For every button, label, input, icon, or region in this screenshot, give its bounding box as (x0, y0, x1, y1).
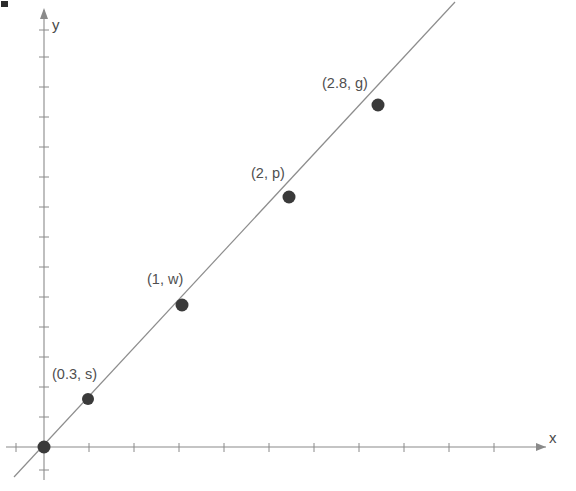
y-axis-label: y (52, 16, 60, 33)
coordinate-plot: (0.3, s) (1, w) (2, p) (2.8, g) y x (0, 0, 576, 491)
trend-line (14, 2, 455, 477)
x-axis-arrow-icon (536, 443, 546, 451)
data-point[interactable] (82, 393, 94, 405)
data-point[interactable] (176, 299, 189, 312)
data-point[interactable] (283, 191, 296, 204)
y-axis-arrow-icon (40, 8, 48, 19)
point-label-0: (0.3, s) (52, 366, 97, 382)
data-point[interactable] (372, 99, 385, 112)
point-label-3: (2.8, g) (322, 75, 368, 91)
graph-canvas: (0.3, s) (1, w) (2, p) (2.8, g) y x (0, 0, 576, 491)
point-label-2: (2, p) (251, 165, 285, 181)
point-label-1: (1, w) (147, 271, 183, 287)
origin-point[interactable] (38, 441, 51, 454)
x-axis-label: x (549, 429, 557, 446)
